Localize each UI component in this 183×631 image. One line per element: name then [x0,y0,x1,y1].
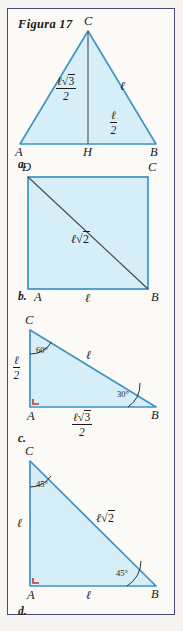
label-a-vertex-a: A [15,146,23,159]
label-c-leg-denominator: 2 [13,369,20,381]
label-a-halfbase-denominator: 2 [110,124,117,136]
label-c-base-fraction: ℓ√3 2 [72,411,92,438]
figure-tag-d: d. [18,606,27,618]
label-a-halfbase-fraction: ℓ 2 [110,109,117,136]
page-root: Figura 17 C A [0,0,183,631]
label-b-vertex-b: B [151,291,159,304]
label-d-angle-45-c: 45° [36,480,48,489]
label-b-vertex-d: D [22,161,31,174]
fraction-bar [13,367,20,368]
sqrt2-glyph: √2 [101,510,115,525]
label-a-height-numerator: ℓ√3 [56,75,76,87]
label-d-vertex-c: C [25,445,33,458]
sqrt3-glyph: √3 [62,74,75,87]
label-b-diagonal: ℓ√2 [71,233,90,245]
triangle-c-shape [30,330,156,407]
label-a-height-fraction: ℓ√3 2 [56,75,76,102]
label-c-angle-60: 60° [36,346,48,355]
label-b-vertex-a: A [34,291,42,304]
label-c-base-numerator: ℓ√3 [72,411,92,423]
fraction-bar [56,88,76,89]
label-c-vertex-b: B [151,409,159,422]
label-d-horizontal-leg: ℓ [86,589,91,601]
triangle-d-shape [30,461,156,586]
label-d-vertex-b: B [151,588,159,601]
figure-tag-b: b. [18,291,27,303]
fraction-bar [72,424,92,425]
label-d-hypotenuse: ℓ√2 [96,512,115,524]
label-c-leg-numerator: ℓ [13,354,20,366]
label-a-vertex-h: H [83,146,92,159]
label-b-vertex-c: C [148,161,156,174]
label-a-vertex-b: B [150,146,158,159]
figure-tag-c: c. [18,433,26,445]
figures-canvas [8,9,176,616]
label-d-angle-45-b: 45° [116,569,128,578]
label-d-vertical-leg: ℓ [17,517,22,529]
label-c-leg-fraction: ℓ 2 [13,354,20,381]
label-a-vertex-c: C [84,15,92,28]
label-a-height-denominator: 2 [56,90,76,102]
sqrt2-glyph: √2 [76,231,90,246]
label-c-vertex-a: A [27,410,35,423]
sqrt3-glyph: √3 [78,410,91,423]
label-c-hypotenuse: ℓ [86,349,91,361]
figure-frame: Figura 17 C A [7,8,175,615]
label-c-angle-30: 30° [117,390,129,399]
label-a-halfbase-numerator: ℓ [110,109,117,121]
label-c-base-denominator: 2 [72,426,92,438]
label-a-slant-side: ℓ [120,80,125,92]
label-b-base: ℓ [85,292,90,304]
label-d-vertex-a: A [27,589,35,602]
label-c-vertex-c: C [25,314,33,327]
fraction-bar [110,122,117,123]
